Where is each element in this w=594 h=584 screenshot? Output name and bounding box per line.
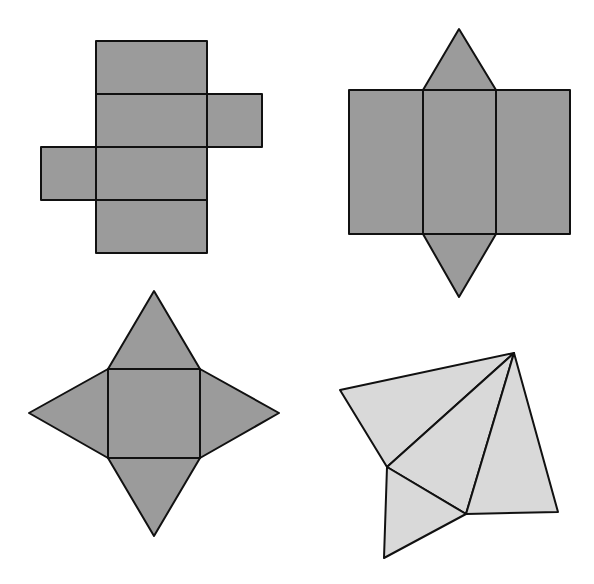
square-pyramid-net-face-1 — [108, 291, 200, 369]
triangular-prism-net-face-1 — [423, 29, 496, 90]
square-pyramid-net-face-3 — [200, 369, 279, 458]
cuboid-net-face-1 — [96, 41, 207, 94]
square-pyramid-net-face-4 — [108, 458, 200, 536]
nets-diagram — [0, 0, 594, 584]
triangular-prism-net-face-4 — [496, 90, 570, 234]
cuboid-net-face-3 — [207, 94, 262, 147]
square-pyramid-net-face-2 — [29, 369, 108, 458]
cuboid-net-face-4 — [41, 147, 96, 200]
cuboid-net-face-5 — [96, 147, 207, 200]
cuboid-net-face-2 — [96, 94, 207, 147]
triangular-prism-net-face-3 — [423, 90, 496, 234]
tetrahedron-net — [340, 353, 558, 558]
square-pyramid-net — [29, 291, 279, 536]
triangular-prism-net-face-5 — [423, 234, 496, 297]
cuboid-net — [41, 41, 262, 253]
cuboid-net-face-6 — [96, 200, 207, 253]
geometric-nets-figure — [0, 0, 594, 584]
square-pyramid-net-face-5 — [108, 369, 200, 458]
triangular-prism-net-face-2 — [349, 90, 423, 234]
triangular-prism-net — [349, 29, 570, 297]
